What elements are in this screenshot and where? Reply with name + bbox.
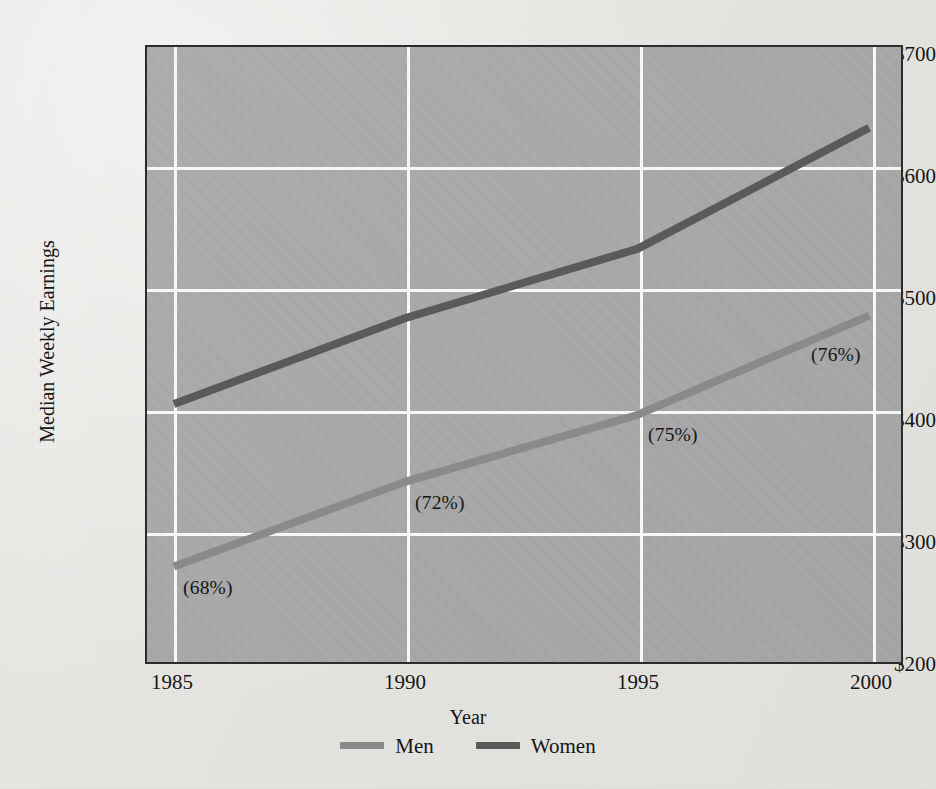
y-axis-title-text: Median Weekly Earnings: [36, 240, 58, 442]
chart-legend: Men Women: [0, 735, 936, 756]
annotation-percent-1985: (68%): [183, 577, 233, 599]
x-axis-tick-1985-label: 1985: [151, 670, 193, 694]
x-axis-tick-1995: 1995: [583, 672, 693, 693]
plot-area: (68%) (72%) (75%) (76%): [145, 45, 903, 664]
line-chart-figure: $700 $600 $500 $400 $300 $200 (68%): [0, 0, 936, 789]
x-axis-tick-2000-label: 2000: [850, 670, 892, 694]
annotation-percent-2000: (76%): [811, 344, 861, 366]
x-axis-tick-1985: 1985: [117, 672, 227, 693]
annotation-percent-2000-text: (76%): [811, 344, 861, 365]
legend-swatch-men-icon: [340, 742, 384, 749]
x-axis-title-text: Year: [450, 706, 487, 728]
annotation-percent-1990: (72%): [415, 492, 465, 514]
annotation-percent-1990-text: (72%): [415, 492, 465, 513]
x-axis-tick-1995-label: 1995: [617, 670, 659, 694]
legend-swatch-women-icon: [476, 742, 520, 749]
y-axis-title: Median Weekly Earnings: [36, 142, 59, 542]
annotation-percent-1995-text: (75%): [648, 424, 698, 445]
x-axis-title: Year: [0, 706, 936, 729]
legend-item-women: Women: [476, 735, 596, 756]
x-axis-tick-2000: 2000: [816, 672, 926, 693]
annotation-percent-1995: (75%): [648, 424, 698, 446]
legend-label-women: Women: [531, 736, 596, 757]
x-axis-tick-1990: 1990: [350, 672, 460, 693]
series-lines: [147, 47, 901, 662]
legend-label-men: Men: [395, 736, 434, 757]
annotation-percent-1985-text: (68%): [183, 577, 233, 598]
x-axis-tick-1990-label: 1990: [384, 670, 426, 694]
series-line-men: [174, 316, 869, 567]
legend-item-men: Men: [340, 735, 434, 756]
